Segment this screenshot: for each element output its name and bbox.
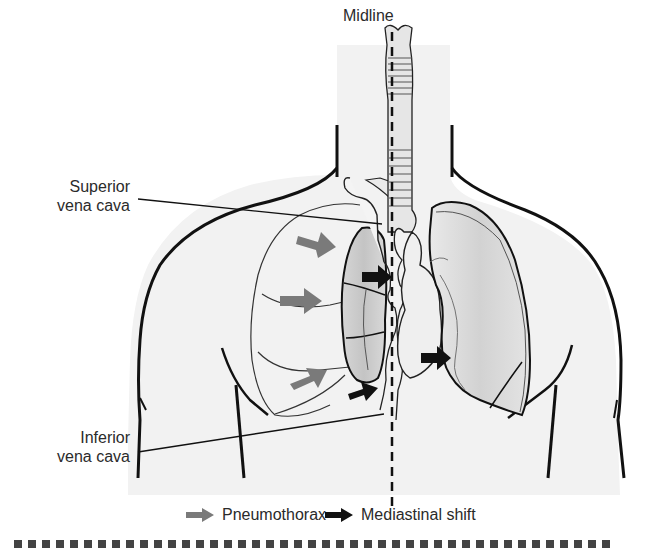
legend-label-mediastinal-shift: Mediastinal shift — [361, 506, 476, 524]
caption-text-cropped — [14, 540, 614, 548]
inferior-vena-cava-label: Inferior vena cava — [0, 428, 130, 466]
legend: Pneumothorax Mediastinal shift — [0, 506, 650, 530]
ivc-label-line1: Inferior — [0, 428, 130, 447]
legend-label-pneumothorax: Pneumothorax — [222, 506, 326, 524]
legend-item-pneumothorax: Pneumothorax — [186, 506, 326, 524]
legend-item-mediastinal-shift: Mediastinal shift — [325, 506, 476, 524]
figure-caption-truncated — [0, 537, 650, 549]
midline-label: Midline — [343, 6, 394, 25]
superior-vena-cava-label: Superior vena cava — [0, 177, 130, 215]
gray-arrow-icon — [186, 508, 214, 522]
svc-label-line1: Superior — [0, 177, 130, 196]
black-arrow-icon — [325, 508, 353, 522]
ivc-label-line2: vena cava — [0, 447, 130, 466]
svc-label-line2: vena cava — [0, 196, 130, 215]
